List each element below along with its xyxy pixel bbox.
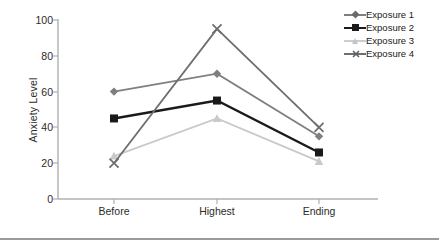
- legend-key-exposure-3: [344, 34, 366, 47]
- footer-divider: [0, 238, 439, 240]
- legend-key-exposure-1: [344, 8, 366, 21]
- legend-key-exposure-2: [344, 21, 366, 34]
- legend-item-exposure-3[interactable]: Exposure 3: [344, 34, 439, 47]
- legend-label: Exposure 4: [366, 47, 414, 60]
- square-marker-icon: [352, 24, 359, 31]
- legend-item-exposure-1[interactable]: Exposure 1: [344, 8, 439, 21]
- legend-item-exposure-2[interactable]: Exposure 2: [344, 21, 439, 34]
- series-1: [110, 70, 323, 141]
- triangle-marker-icon: [352, 38, 358, 44]
- anxiety-level-line-chart: Anxiety Level 100 80 60 40 20 0 Before H…: [0, 0, 439, 247]
- data-series-layer: [110, 24, 324, 167]
- legend: Exposure 1 Exposure 2 Exposure 3 Exp: [344, 8, 439, 60]
- legend-label: Exposure 1: [366, 8, 414, 21]
- diamond-marker-icon: [352, 11, 360, 19]
- legend-label: Exposure 3: [366, 34, 414, 47]
- axis-lines: [53, 19, 378, 204]
- legend-key-exposure-4: [344, 47, 366, 60]
- legend-label: Exposure 2: [366, 21, 414, 34]
- legend-item-exposure-4[interactable]: Exposure 4: [344, 47, 439, 60]
- cross-marker-icon: [352, 50, 360, 58]
